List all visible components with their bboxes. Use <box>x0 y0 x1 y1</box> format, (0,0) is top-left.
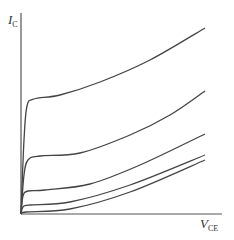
curve-4 <box>21 155 205 214</box>
curve-2 <box>21 91 205 214</box>
curve-3 <box>21 134 205 214</box>
y-axis-label: IC <box>7 12 18 29</box>
curve-5 <box>21 160 205 214</box>
output-characteristics-chart: IC VCE <box>0 0 234 240</box>
curves-group <box>21 28 205 214</box>
curve-1 <box>21 28 205 214</box>
x-axis-label: VCE <box>200 216 218 233</box>
